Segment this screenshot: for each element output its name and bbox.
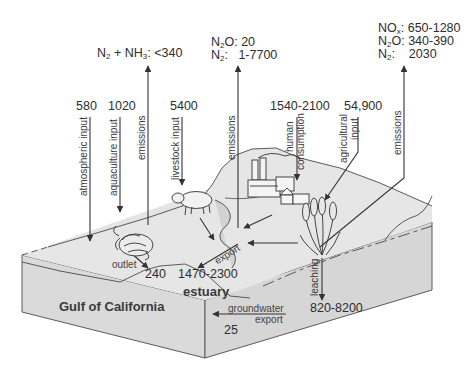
emissions-label-2: emissions	[226, 116, 237, 160]
outlet-value: 240	[145, 268, 166, 281]
gulf-of-california-label: Gulf of California	[59, 300, 164, 313]
atmospheric-input-value: 580	[76, 100, 97, 113]
human-consumption-value: 1540-2100	[270, 100, 330, 113]
agricultural-input-value: 54,900	[344, 100, 382, 113]
livestock-input-label: livestock input	[170, 117, 181, 180]
agriculture-emissions-label: NOx: 650-1280 N2O: 340-390 N2: 2030	[378, 22, 461, 61]
groundwater-value: 25	[224, 324, 238, 337]
aquaculture-input-label: aquaculture input	[108, 119, 119, 196]
aquaculture-input-value: 1020	[108, 100, 136, 113]
groundwater-label-2: export	[255, 313, 283, 326]
agricultural-input-label-2: input	[349, 118, 360, 140]
emissions-label-1: emissions	[136, 116, 147, 160]
export-value: 1470-2300	[178, 268, 238, 281]
livestock-emissions-label: N2O: 20 N2: 1-7700	[211, 36, 277, 62]
leaching-label: leaching	[309, 259, 320, 296]
atmospheric-input-label: atmospheric input	[78, 117, 89, 196]
outlet-label: outlet	[112, 258, 136, 271]
aquaculture-emissions-label: N2 + NH3: <340	[97, 47, 182, 60]
livestock-input-value: 5400	[170, 100, 198, 113]
agricultural-input-label-1: agricultural	[338, 114, 349, 163]
human-consumption-label-2: consumption	[295, 113, 306, 170]
human-consumption-label-1: human	[284, 121, 295, 152]
emissions-label-3: emissions	[392, 111, 403, 155]
leaching-value: 820-8200	[310, 302, 363, 315]
estuary-label: estuary	[183, 285, 229, 298]
